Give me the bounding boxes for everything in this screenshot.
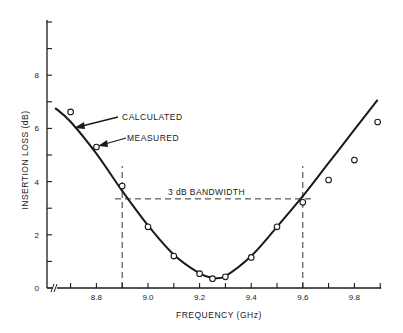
measured-point-marker (274, 224, 280, 230)
measured-point-marker (300, 200, 306, 206)
measured-point-marker (68, 109, 74, 115)
x-tick-label: 9.8 (349, 293, 361, 302)
measured-point-marker (375, 119, 381, 125)
x-tick-label: 9.0 (142, 293, 154, 302)
measured-point-marker (352, 157, 358, 163)
y-axis-title: INSERTION LOSS (dB) (20, 110, 30, 209)
calculated-arrow-line (82, 117, 118, 126)
x-tick-label: 8.8 (91, 293, 103, 302)
axis-break-icon (54, 284, 57, 292)
measured-point-marker (171, 253, 177, 259)
calculated-arrow-head-icon (74, 122, 85, 129)
x-tick-label: 9.6 (297, 293, 309, 302)
y-tick-label: 2 (35, 231, 40, 240)
bandwidth-label: 3 dB BANDWIDTH (168, 187, 245, 197)
x-tick-label: 9.4 (246, 293, 258, 302)
measured-point-marker (145, 224, 151, 230)
reference-lines (115, 166, 312, 288)
measured-point-marker (210, 276, 216, 282)
x-tick-label: 9.2 (194, 293, 206, 302)
y-tick-label: 8 (35, 71, 40, 80)
measured-arrow-line (105, 138, 126, 144)
measured-point-marker (94, 144, 100, 150)
measured-point-marker (223, 274, 229, 280)
y-tick-label: 4 (35, 178, 40, 187)
y-tick-label: 0 (35, 284, 40, 293)
measured-point-marker (326, 177, 332, 183)
measured-point-marker (197, 271, 203, 277)
measured-point-marker (119, 183, 125, 189)
measured-point-marker (248, 255, 254, 261)
y-tick-label: 6 (35, 124, 40, 133)
measured-label: MEASURED (127, 133, 179, 143)
calculated-label: CALCULATED (122, 112, 183, 122)
measured-arrow-head-icon (98, 140, 108, 147)
insertion-loss-chart: 024688.89.09.29.49.69.8 CALCULATED MEASU… (0, 0, 403, 333)
x-axis-title: FREQUENCY (GHz) (176, 310, 262, 320)
